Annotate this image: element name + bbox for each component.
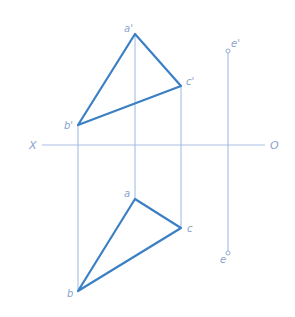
point-e-marker <box>226 251 230 255</box>
point-e-prime-marker <box>226 49 230 53</box>
label-b: b <box>67 288 73 299</box>
label-b-prime: b' <box>64 120 73 131</box>
label-e: e <box>220 254 226 265</box>
label-a: a <box>124 188 130 199</box>
label-e-prime: e' <box>231 38 240 49</box>
label-c-prime: c' <box>186 76 194 87</box>
label-a-prime: a' <box>124 23 133 34</box>
axis-label-x: X <box>28 139 37 152</box>
axis-label-o: O <box>270 139 279 152</box>
projection-diagram: X O a' b' c' e' a b c e <box>0 0 295 317</box>
front-view-triangle <box>78 34 181 125</box>
top-view-triangle <box>78 199 181 291</box>
label-c: c <box>187 223 193 234</box>
